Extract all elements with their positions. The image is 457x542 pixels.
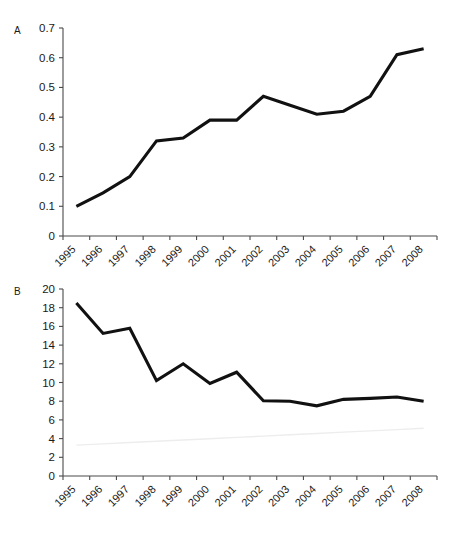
- ytick-label: 10: [42, 377, 55, 389]
- panel-b-ytick-marks: [59, 289, 63, 476]
- panel-b-trend-line: [76, 428, 423, 445]
- xtick-label: 1996: [79, 483, 105, 509]
- ytick-label: 0: [49, 230, 55, 242]
- panel-b-ytick-labels: 02468101214161820: [42, 283, 55, 482]
- panel-b-data-line: [76, 303, 423, 406]
- panel-b-letter: B: [14, 286, 21, 297]
- ytick-label: 12: [42, 358, 55, 370]
- chart-panel-b: B 02468101214161820 19951996199719981999…: [0, 271, 457, 542]
- xtick-label: 2008: [399, 243, 425, 269]
- panel-a-data-line: [76, 49, 423, 206]
- xtick-label: 2003: [266, 243, 292, 269]
- xtick-label: 2001: [212, 243, 238, 269]
- panel-b-xtick-marks: [63, 476, 437, 480]
- xtick-label: 2001: [212, 483, 238, 509]
- ytick-label: 0.4: [39, 111, 56, 123]
- xtick-label: 1998: [132, 483, 158, 509]
- xtick-label: 2000: [186, 483, 212, 509]
- xtick-label: 2000: [186, 243, 212, 269]
- xtick-label: 1999: [159, 243, 185, 269]
- xtick-label: 1996: [79, 243, 105, 269]
- xtick-label: 2007: [373, 243, 399, 269]
- chart-panel-a: A 00.10.20.30.40.50.60.7 199519961997199…: [0, 0, 457, 271]
- xtick-label: 2005: [319, 243, 345, 269]
- two-panel-line-chart-figure: A 00.10.20.30.40.50.60.7 199519961997199…: [0, 0, 457, 542]
- ytick-label: 14: [42, 339, 55, 351]
- panel-a-ytick-labels: 00.10.20.30.40.50.60.7: [39, 22, 56, 242]
- xtick-label: 2006: [346, 243, 372, 269]
- xtick-label: 1997: [105, 243, 131, 269]
- xtick-label: 2002: [239, 243, 265, 269]
- ytick-label: 18: [42, 302, 55, 314]
- panel-a-xtick-marks: [63, 236, 437, 240]
- xtick-label: 1995: [52, 483, 78, 509]
- panel-a-letter: A: [14, 25, 21, 36]
- ytick-label: 16: [42, 320, 55, 332]
- ytick-label: 0.7: [39, 22, 55, 34]
- ytick-label: 20: [42, 283, 55, 295]
- ytick-label: 6: [49, 414, 55, 426]
- xtick-label: 2004: [292, 483, 318, 509]
- ytick-label: 0.2: [39, 171, 55, 183]
- ytick-label: 0.3: [39, 141, 55, 153]
- ytick-label: 0.1: [39, 200, 55, 212]
- panel-b-xtick-labels: 1995199619971998199920002001200220032004…: [52, 483, 425, 509]
- xtick-label: 2004: [292, 243, 318, 269]
- ytick-label: 2: [49, 451, 55, 463]
- ytick-label: 0.5: [39, 81, 55, 93]
- xtick-label: 2002: [239, 483, 265, 509]
- panel-a-ytick-marks: [59, 28, 63, 236]
- xtick-label: 2007: [373, 483, 399, 509]
- xtick-label: 2003: [266, 483, 292, 509]
- ytick-label: 0.6: [39, 52, 55, 64]
- xtick-label: 1997: [105, 483, 131, 509]
- panel-a-xtick-labels: 1995199619971998199920002001200220032004…: [52, 243, 425, 269]
- ytick-label: 8: [49, 395, 55, 407]
- xtick-label: 1998: [132, 243, 158, 269]
- xtick-label: 1995: [52, 243, 78, 269]
- panel-a-svg: A 00.10.20.30.40.50.60.7 199519961997199…: [0, 0, 457, 271]
- ytick-label: 4: [49, 433, 56, 445]
- xtick-label: 2008: [399, 483, 425, 509]
- xtick-label: 2005: [319, 483, 345, 509]
- ytick-label: 0: [49, 470, 55, 482]
- xtick-label: 1999: [159, 483, 185, 509]
- xtick-label: 2006: [346, 483, 372, 509]
- panel-b-svg: B 02468101214161820 19951996199719981999…: [0, 271, 457, 542]
